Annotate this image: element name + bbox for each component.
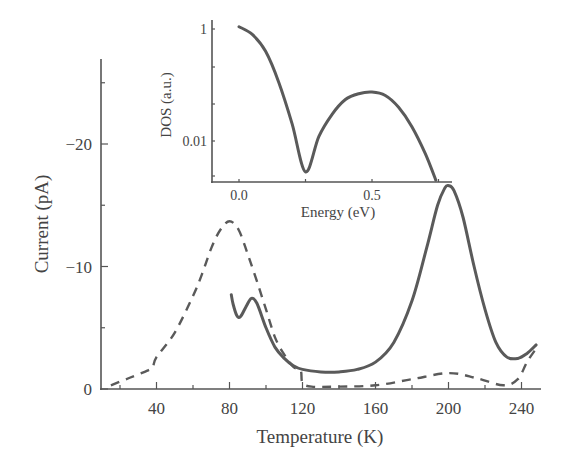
inset-background [212, 20, 454, 183]
x-tick-label: 240 [509, 399, 535, 418]
x-tick-label: 120 [290, 399, 316, 418]
inset-y-axis-label: DOS (a.u.) [158, 72, 175, 137]
inset-x-axis-label: Energy (eV) [301, 204, 375, 221]
x-tick-label: 40 [148, 399, 165, 418]
inset-plot: 0.00.5 10.01 Energy (eV) DOS (a.u.) [158, 20, 454, 221]
y-tick-label: 0 [84, 380, 93, 399]
y-axis-label: Current (pA) [31, 175, 53, 274]
x-tick-label: 80 [221, 399, 238, 418]
dashed-current-curve [111, 221, 536, 387]
inset-y-axis-ticks: 10.01 [183, 22, 216, 176]
inset-y-tick-label: 0.01 [183, 134, 208, 149]
y-tick-label: −20 [65, 135, 92, 154]
x-tick-label: 160 [363, 399, 389, 418]
inset-x-tick-label: 0.0 [230, 188, 248, 203]
inset-x-tick-label: 0.5 [363, 188, 381, 203]
inset-y-tick-label: 1 [200, 22, 207, 37]
solid-current-curve [231, 185, 536, 372]
chart-canvas: 4080120160200240 0−10−20 Temperature (K)… [0, 0, 567, 471]
x-tick-label: 200 [436, 399, 462, 418]
y-tick-label: −10 [65, 258, 92, 277]
x-axis-label: Temperature (K) [257, 426, 384, 448]
